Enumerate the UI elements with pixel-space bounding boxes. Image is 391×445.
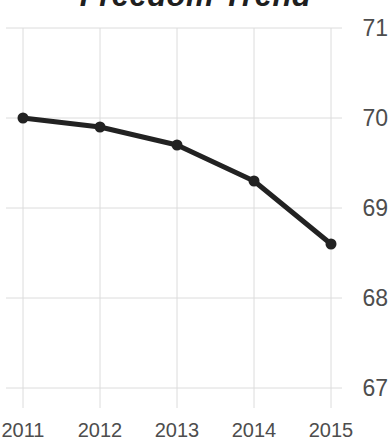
y-tick-label: 68: [362, 285, 388, 311]
y-tick-label: 71: [362, 15, 388, 41]
freedom-trend-chart: Freedom Trend 67686970712011201220132014…: [0, 0, 391, 445]
data-point-2012: [95, 122, 106, 133]
x-tick-label: 2015: [309, 419, 354, 441]
x-tick-label: 2011: [1, 419, 44, 441]
data-point-2015: [326, 239, 337, 250]
line-chart-canvas: 676869707120112012201320142015: [0, 0, 391, 445]
data-point-2013: [172, 140, 183, 151]
x-tick-label: 2014: [232, 419, 277, 441]
y-tick-label: 67: [362, 375, 388, 401]
y-tick-label: 70: [362, 105, 388, 131]
y-tick-label: 69: [362, 195, 388, 221]
data-point-2011: [18, 113, 29, 124]
x-tick-label: 2013: [155, 419, 200, 441]
data-point-2014: [249, 176, 260, 187]
x-tick-label: 2012: [78, 419, 123, 441]
